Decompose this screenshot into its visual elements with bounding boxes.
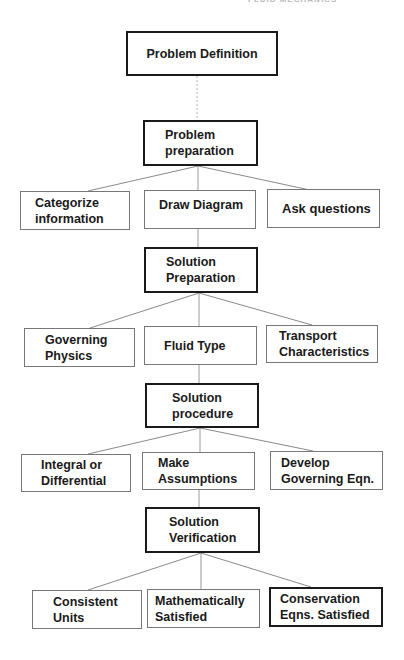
box-problem-definition: Problem Definition xyxy=(126,31,278,76)
connector-fan-left xyxy=(88,166,198,191)
box-label: Fluid Type xyxy=(164,338,226,354)
box-label: Mathematically Satisfied xyxy=(155,593,245,625)
box-make-assumptions: Make Assumptions xyxy=(142,452,255,490)
box-transport-characteristics: Transport Characteristics xyxy=(266,325,378,363)
box-ask-questions: Ask questions xyxy=(267,189,380,228)
box-label: Governing Physics xyxy=(45,332,108,364)
box-label: Develop Governing Eqn. xyxy=(281,455,374,487)
box-conservation-eqns-satisfied: Conservation Eqns. Satisfied xyxy=(269,587,383,627)
box-mathematically-satisfied: Mathematically Satisfied xyxy=(147,589,260,628)
connector-fan-left xyxy=(88,553,201,590)
box-label: Consistent Units xyxy=(53,594,118,626)
box-label: Problem Definition xyxy=(146,46,257,62)
box-consistent-units: Consistent Units xyxy=(32,590,142,629)
box-label: Transport Characteristics xyxy=(279,328,369,360)
box-integral-or-differential: Integral or Differential xyxy=(21,454,131,492)
box-draw-diagram: Draw Diagram xyxy=(144,190,256,229)
box-label: Solution Verification xyxy=(169,514,236,546)
connector-fan-left xyxy=(88,428,200,454)
box-governing-physics: Governing Physics xyxy=(24,328,135,367)
box-label: Categorize information xyxy=(35,195,104,227)
connector-fan-left xyxy=(90,293,199,328)
connector-fan-right xyxy=(198,166,310,190)
connector-fan-right xyxy=(200,428,313,451)
box-label: Make Assumptions xyxy=(158,455,237,487)
box-label: Problem preparation xyxy=(165,127,234,159)
box-label: Integral or Differential xyxy=(41,457,106,489)
box-problem-preparation: Problem preparation xyxy=(143,120,258,166)
box-categorize-information: Categorize information xyxy=(20,191,130,230)
box-label: Solution procedure xyxy=(172,390,233,422)
box-label: Ask questions xyxy=(282,201,371,217)
box-label: Draw Diagram xyxy=(159,197,243,213)
connector-fan-right xyxy=(201,553,311,587)
box-solution-verification: Solution Verification xyxy=(145,507,260,553)
box-solution-preparation: Solution Preparation xyxy=(144,247,258,293)
box-label: Conservation Eqns. Satisfied xyxy=(280,591,370,623)
box-fluid-type: Fluid Type xyxy=(144,326,257,365)
connector-fan-right xyxy=(199,293,312,325)
box-develop-governing-eqn: Develop Governing Eqn. xyxy=(270,451,383,490)
box-solution-procedure: Solution procedure xyxy=(145,383,259,428)
box-label: Solution Preparation xyxy=(166,254,235,286)
